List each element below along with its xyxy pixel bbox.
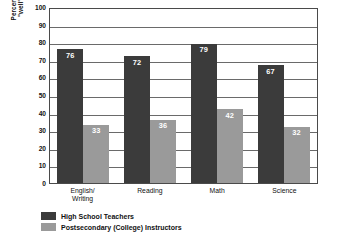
bar-group: 7633 xyxy=(50,9,117,183)
bar[interactable]: 32 xyxy=(284,127,310,183)
y-axis-tick-10: 10 xyxy=(24,163,46,170)
bar-value-label: 79 xyxy=(191,46,217,53)
x-axis-category-label: English/Writing xyxy=(49,187,116,209)
x-axis-category-label: Reading xyxy=(116,187,183,209)
y-axis-tick-20: 20 xyxy=(24,146,46,153)
y-axis-title-line-1: Percentage answering xyxy=(10,0,17,20)
y-axis-tick-60: 60 xyxy=(24,75,46,82)
bar[interactable]: 36 xyxy=(150,120,176,183)
y-axis-tick-90: 90 xyxy=(24,22,46,29)
bar-group: 6732 xyxy=(250,9,317,183)
legend-swatch-icon xyxy=(41,212,56,220)
bar-value-label: 33 xyxy=(83,127,109,134)
y-axis-tick-80: 80 xyxy=(24,40,46,47)
y-axis-tick-100: 100 xyxy=(24,5,46,12)
bar-value-label: 36 xyxy=(150,122,176,129)
x-axis-category-label-line: Writing xyxy=(49,195,116,203)
x-axis-category-label-line: Science xyxy=(251,187,318,195)
legend: High School TeachersPostsecondary (Colle… xyxy=(41,212,182,231)
x-axis-category-label: Science xyxy=(251,187,318,209)
y-axis-tick-40: 40 xyxy=(24,110,46,117)
x-axis-category-labels: English/WritingReadingMathScience xyxy=(49,187,318,209)
bars-layer: 7633723679426732 xyxy=(50,9,317,183)
legend-item[interactable]: Postsecondary (College) Instructors xyxy=(41,223,182,231)
legend-swatch-icon xyxy=(41,223,56,231)
legend-label: Postsecondary (College) Instructors xyxy=(61,224,182,231)
x-axis-category-label-line: English/ xyxy=(49,187,116,195)
bar[interactable]: 33 xyxy=(83,125,109,183)
y-axis-tick-labels: 1009080706050403020100 xyxy=(24,8,46,184)
legend-label: High School Teachers xyxy=(61,213,134,220)
bar-value-label: 42 xyxy=(217,112,243,119)
bar-group: 7236 xyxy=(117,9,184,183)
bar[interactable]: 67 xyxy=(258,65,284,183)
bar-value-label: 76 xyxy=(57,52,83,59)
y-axis-tick-70: 70 xyxy=(24,58,46,65)
y-axis-tick-0: 0 xyxy=(24,181,46,188)
bar-value-label: 32 xyxy=(284,129,310,136)
bar[interactable]: 42 xyxy=(217,109,243,183)
plot-area: 7633723679426732 xyxy=(49,8,318,184)
bar[interactable]: 76 xyxy=(57,49,83,183)
y-axis-tick-50: 50 xyxy=(24,93,46,100)
grouped-bar-chart: Percentage answering "well" or "very wel… xyxy=(0,0,338,244)
bar-value-label: 67 xyxy=(258,68,284,75)
bar-group: 7942 xyxy=(184,9,251,183)
bar[interactable]: 72 xyxy=(124,56,150,183)
x-axis-category-label-line: Reading xyxy=(116,187,183,195)
bar-value-label: 72 xyxy=(124,59,150,66)
legend-item[interactable]: High School Teachers xyxy=(41,212,182,220)
bar[interactable]: 79 xyxy=(191,44,217,183)
y-axis-tick-30: 30 xyxy=(24,128,46,135)
x-axis-category-label: Math xyxy=(184,187,251,209)
x-axis-category-label-line: Math xyxy=(184,187,251,195)
